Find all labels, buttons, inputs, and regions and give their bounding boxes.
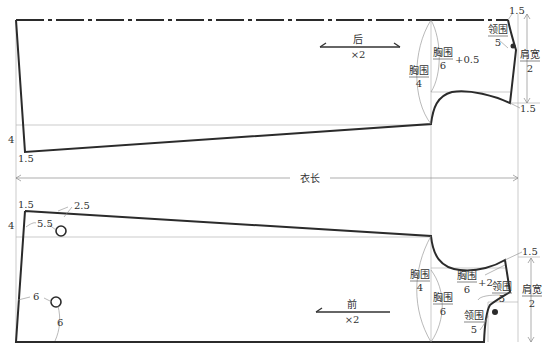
- back-chest-quarter-num: 胸围: [409, 64, 429, 76]
- button-2: [51, 297, 61, 307]
- front-grain-label: 前: [347, 298, 357, 310]
- front-grain-multiplier: ×2: [345, 314, 360, 325]
- back-neck-den: 5: [495, 37, 501, 48]
- front-chest-quarter-num: 胸围: [410, 268, 430, 280]
- back-chest-sixth-suffix: +0.5: [455, 54, 479, 65]
- back-chest-sixth-den: 6: [440, 60, 446, 71]
- front-chest-plus-den: 6: [464, 284, 470, 295]
- front-neck-depth-num: 领围: [464, 309, 484, 321]
- front-neck-depth-den: 5: [471, 324, 477, 335]
- overall-length-label: 衣长: [300, 172, 320, 184]
- back-shoulder-den: 2: [527, 63, 533, 74]
- front-neck-width-num: 领围: [492, 280, 512, 292]
- button2-offset-y: 6: [57, 317, 63, 328]
- front-hem-top-offset: 1.5: [18, 199, 34, 210]
- back-hem-offset: 1.5: [18, 153, 34, 164]
- back-piece: [16, 14, 530, 152]
- front-shoulder-offset: 1.5: [522, 246, 538, 257]
- front-neck-point: [492, 309, 498, 315]
- back-neck-num: 领围: [488, 23, 508, 35]
- back-chest-quarter-den: 4: [416, 78, 422, 89]
- back-shoulder-top-offset: 1.5: [509, 5, 525, 16]
- back-grain-label: 后: [353, 34, 363, 45]
- button-1: [56, 226, 66, 236]
- labels: 后 ×2 4 1.5 胸围 4 胸围 6 +0.5 领围 5 肩宽 2 1.5 …: [8, 5, 542, 335]
- front-hem-rise: 4: [8, 220, 14, 231]
- button1-offset-x: 5.5: [37, 218, 53, 229]
- button1-offset-y: 2.5: [74, 200, 90, 211]
- front-shoulder-den: 2: [529, 298, 535, 309]
- back-shoulder-bottom-offset: 1.5: [520, 103, 536, 114]
- back-neck-point: [511, 44, 516, 49]
- overall-length-dimension: [16, 175, 518, 181]
- front-shoulder-num: 肩宽: [522, 283, 542, 295]
- back-chest-sixth-num: 胸围: [433, 46, 453, 58]
- pattern-diagram: 后 ×2 4 1.5 胸围 4 胸围 6 +0.5 领围 5 肩宽 2 1.5 …: [0, 0, 549, 349]
- front-neck-width-den: 5: [499, 293, 505, 304]
- back-outline: [16, 20, 516, 152]
- front-chest-plus-suffix: +2: [478, 277, 493, 288]
- back-grain-multiplier: ×2: [351, 49, 366, 60]
- button2-offset-x: 6: [33, 291, 39, 302]
- back-hem-rise: 4: [8, 134, 14, 145]
- front-chest-quarter-den: 4: [417, 282, 423, 293]
- front-chest-plus-num: 胸围: [457, 269, 477, 281]
- back-shoulder-num: 肩宽: [520, 48, 540, 60]
- front-chest-sixth-num: 胸围: [433, 291, 453, 303]
- front-outline: [16, 211, 510, 342]
- front-chest-sixth-den: 6: [440, 306, 446, 317]
